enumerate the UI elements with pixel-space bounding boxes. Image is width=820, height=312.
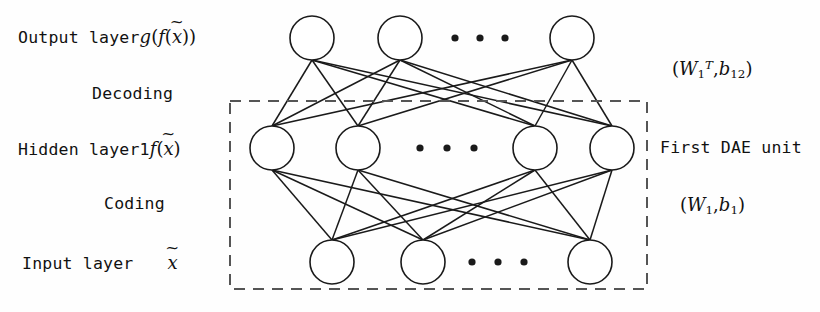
edges-hidden-to-output xyxy=(272,60,612,126)
f-symbol: f xyxy=(158,26,165,47)
input-layer-math: ~x xyxy=(167,252,177,273)
ellipsis-dot-output-layer-2 xyxy=(476,34,483,41)
hidden-layer-math: f(~x) xyxy=(150,138,181,159)
b-subscript: 1 xyxy=(730,203,738,217)
neuron-hidden-layer-1-3 xyxy=(513,126,557,170)
neuron-hidden-layer-1-2 xyxy=(336,126,380,170)
neuron-output-layer-1 xyxy=(290,16,334,60)
W-symbol: W xyxy=(687,194,706,215)
hidden-layer-index: 1 xyxy=(140,140,150,159)
b-subscript: 12 xyxy=(730,67,745,81)
x-tilde: ~x xyxy=(172,28,182,46)
neuron-output-layer-3 xyxy=(550,16,594,60)
hidden-layer-text: Hidden layer xyxy=(18,140,140,159)
neuron-input-layer-1 xyxy=(310,240,354,284)
output-layer-text: Output layer xyxy=(18,28,140,47)
W-subscript: 1 xyxy=(706,203,714,217)
W-subscript: 1 xyxy=(698,67,706,81)
dae-unit-label: First DAE unit xyxy=(660,140,802,157)
neuron-hidden-layer-1-4 xyxy=(590,126,634,170)
edge-input-hidden xyxy=(272,170,423,240)
edges-input-to-hidden xyxy=(272,170,612,240)
paren-open: ( xyxy=(672,58,679,79)
ellipsis-dot-hidden-layer-1-3 xyxy=(470,144,477,151)
ellipsis-dot-input-layer-2 xyxy=(494,258,501,265)
tilde-accent: ~ xyxy=(161,126,175,143)
paren-close: ) xyxy=(745,58,752,79)
tilde-accent: ~ xyxy=(165,240,179,257)
tilde-accent: ~ xyxy=(170,14,184,31)
output-layer-math: g(f(~x)) xyxy=(140,26,196,47)
encoder-params-label: (W1,b1) xyxy=(680,196,745,217)
edge-input-hidden xyxy=(590,170,612,240)
ellipsis-dot-hidden-layer-1-2 xyxy=(443,144,450,151)
edge-hidden-output xyxy=(400,60,612,126)
W-superscript-transpose: T xyxy=(705,58,713,72)
hidden-layer-label: Hidden layer1f(~x) xyxy=(18,140,181,159)
edge-input-hidden xyxy=(358,170,590,240)
ellipsis-dot-output-layer-3 xyxy=(501,34,508,41)
layer-nodes xyxy=(250,16,634,284)
ellipsis-dot-hidden-layer-1-1 xyxy=(416,144,423,151)
paren-close-outer: ) xyxy=(189,26,196,47)
b-symbol: b xyxy=(719,194,731,215)
paren-close: ) xyxy=(738,194,745,215)
paren-open: ( xyxy=(680,194,687,215)
decoding-label: Decoding xyxy=(92,86,173,103)
neuron-hidden-layer-1-1 xyxy=(250,126,294,170)
input-layer-label: Input layer~x xyxy=(22,254,178,273)
x-tilde: ~x xyxy=(167,254,177,272)
W-symbol: W xyxy=(679,58,698,79)
output-layer-label: Output layerg(f(~x)) xyxy=(18,28,196,47)
b-symbol: b xyxy=(719,58,731,79)
edge-hidden-output xyxy=(312,60,535,126)
figure-canvas: Output layerg(f(~x)) Decoding Hidden lay… xyxy=(0,0,820,312)
ellipsis-dot-input-layer-1 xyxy=(468,258,475,265)
g-symbol: g xyxy=(140,26,152,47)
edge-hidden-output xyxy=(358,60,400,126)
ellipsis-dot-output-layer-1 xyxy=(451,34,458,41)
neuron-input-layer-3 xyxy=(568,240,612,284)
layer-ellipsis-dots xyxy=(416,34,527,265)
ellipsis-dot-input-layer-3 xyxy=(520,258,527,265)
input-layer-text: Input layer xyxy=(22,254,133,273)
x-tilde: ~x xyxy=(163,140,173,158)
neuron-output-layer-2 xyxy=(378,16,422,60)
edge-input-hidden xyxy=(332,170,358,240)
neuron-input-layer-2 xyxy=(401,240,445,284)
decoder-params-label: (W1T,b12) xyxy=(672,60,752,81)
coding-label: Coding xyxy=(104,196,165,213)
